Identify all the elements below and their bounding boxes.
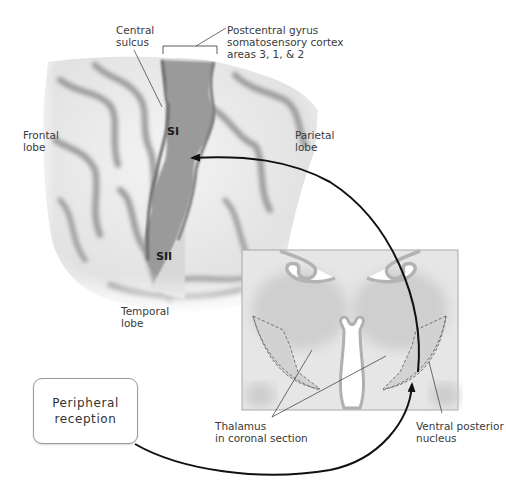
vpn-line1: Ventral posterior: [416, 420, 504, 432]
postcentral-line3: areas 3, 1, & 2: [227, 48, 344, 60]
peripheral-reception-text: Peripheral reception: [52, 395, 119, 427]
sii-label: SII: [156, 250, 172, 263]
parietal-line2: lobe: [295, 141, 334, 153]
central-sulcus-label: Central sulcus: [116, 24, 154, 48]
temporal-line1: Temporal: [121, 305, 169, 317]
si-label: SI: [167, 125, 179, 138]
central-sulcus-line1: Central: [116, 24, 154, 36]
postcentral-line1: Postcentral gyrus: [227, 24, 344, 36]
thalamus-line2: in coronal section: [215, 432, 308, 444]
ventral-posterior-nucleus-label: Ventral posterior nucleus: [416, 420, 504, 444]
postcentral-bracket: [163, 46, 217, 54]
vpn-line2: nucleus: [416, 432, 504, 444]
frontal-line2: lobe: [23, 141, 59, 153]
central-sulcus-line2: sulcus: [116, 36, 154, 48]
thalamus-section-panel: [242, 250, 460, 410]
parietal-line1: Parietal: [295, 129, 334, 141]
thalamus-label: Thalamus in coronal section: [215, 420, 308, 444]
peripheral-reception-box: Peripheral reception: [33, 378, 138, 444]
temporal-lobe-label: Temporal lobe: [121, 305, 169, 329]
postcentral-gyrus-label: Postcentral gyrus somatosensory cortex a…: [227, 24, 344, 60]
parietal-lobe-label: Parietal lobe: [295, 129, 334, 153]
frontal-lobe-label: Frontal lobe: [23, 129, 59, 153]
thalamus-line1: Thalamus: [215, 420, 308, 432]
postcentral-line2: somatosensory cortex: [227, 36, 344, 48]
frontal-line1: Frontal: [23, 129, 59, 141]
temporal-line2: lobe: [121, 317, 169, 329]
